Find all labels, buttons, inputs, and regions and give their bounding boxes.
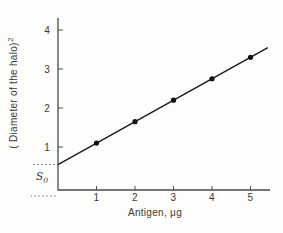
data-point xyxy=(94,141,99,146)
data-point xyxy=(132,119,137,124)
x-tick-label: 5 xyxy=(248,192,254,203)
x-axis-label: Antigen, μg xyxy=(128,207,182,218)
s0-annotation: S0 xyxy=(36,170,48,185)
y-axis-label: ( Diameter of the halo)2 xyxy=(6,37,19,148)
y-tick-label: 4 xyxy=(44,25,50,36)
y-tick-label: 1 xyxy=(44,142,50,153)
data-point xyxy=(248,55,253,60)
fit-line xyxy=(58,48,268,165)
x-tick-label: 2 xyxy=(132,192,138,203)
axes-spines xyxy=(58,18,270,190)
data-point xyxy=(209,76,214,81)
x-tick-label: 4 xyxy=(209,192,215,203)
chart-figure: 123412345S0Antigen, μg( Diameter of the … xyxy=(0,0,283,233)
x-tick-label: 3 xyxy=(171,192,177,203)
x-tick-label: 1 xyxy=(94,192,100,203)
y-tick-label: 2 xyxy=(44,103,50,114)
y-tick-label: 3 xyxy=(44,64,50,75)
scatter-line-chart: 123412345S0Antigen, μg( Diameter of the … xyxy=(0,0,283,233)
data-point xyxy=(171,98,176,103)
